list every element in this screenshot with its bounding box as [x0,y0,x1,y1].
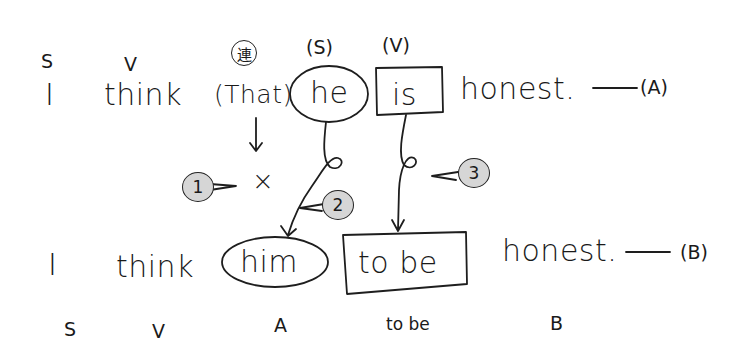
deleted-mark: × [252,168,274,194]
callout-2-tail [300,204,324,211]
annotation-a-b: A [274,316,287,335]
sentence-b-to-be: to be [358,248,438,278]
annotation-s-parenthetical: (S) [306,38,333,57]
is-to-tobe-arrow [392,115,416,231]
that-arrow [250,118,262,151]
annotation-b-b: B [550,314,563,333]
sentence-a-subject: I [45,80,54,110]
sentence-b-him: him [240,247,298,277]
annotation-s-a: S [41,52,53,71]
sentence-a-that: (That) [214,82,293,107]
diagram-connectors [0,0,748,361]
callout-1: 1 [182,172,214,202]
callout-2: 2 [322,190,354,220]
annotation-v-parenthetical: (V) [382,36,410,55]
sentence-b-verb: think [116,252,194,282]
callout-3-tail [432,172,458,180]
annotation-v-a: V [124,55,137,74]
annotation-s-b: S [64,320,76,339]
sentence-a-verb: think [104,80,182,110]
annotation-to-be-b: to be [386,316,430,333]
annotation-v-b: V [152,322,165,341]
sentence-b-subject: I [48,250,57,280]
sentence-b-honest: honest. [502,236,617,266]
sentence-a-he: he [310,78,348,108]
callout-3: 3 [458,158,490,188]
sentence-a-is: is [392,80,417,110]
sentence-b-label: (B) [680,243,708,262]
sentence-a-honest: honest. [460,74,575,104]
conjunction-marker: 連 [231,40,257,66]
sentence-a-label: (A) [640,78,668,97]
